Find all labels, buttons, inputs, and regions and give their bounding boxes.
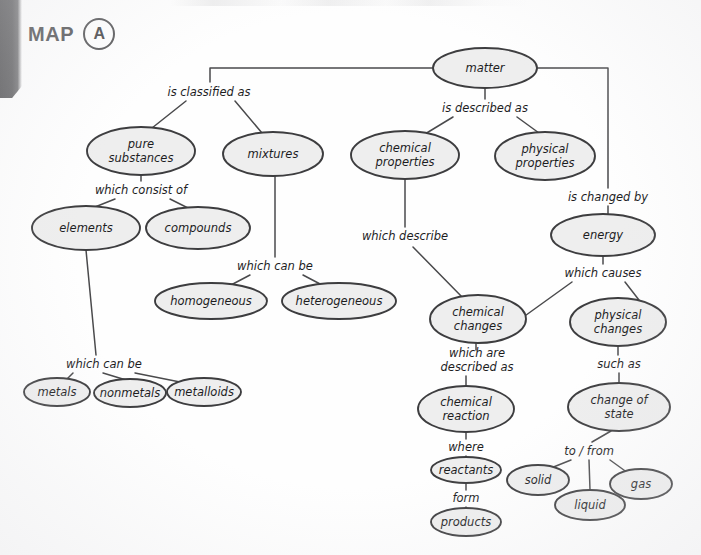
link-label-which_can_be_elem: which can be — [66, 357, 142, 371]
node-label: chemical — [452, 305, 504, 319]
node-label: liquid — [574, 498, 606, 512]
edge-which_can_be_mix-to-homogeneous — [231, 275, 250, 285]
link-label-text: such as — [597, 357, 641, 371]
link-label-such_as: such as — [597, 357, 641, 371]
link-label-is_classified_as: is classified as — [167, 85, 250, 99]
concept-map-page: MAP A matterpuresubstancesmixtureschemic… — [0, 0, 701, 555]
link-label-text: described as — [441, 360, 514, 374]
node-label: products — [440, 515, 491, 529]
node-energy[interactable]: energy — [551, 214, 655, 256]
node-matter[interactable]: matter — [433, 48, 537, 88]
edge-is_classified_as-to-pure_substances — [152, 101, 186, 128]
node-products[interactable]: products — [431, 508, 501, 536]
node-label: pure — [127, 137, 154, 151]
node-physical_properties[interactable]: physicalproperties — [495, 132, 595, 180]
node-mixtures[interactable]: mixtures — [223, 132, 323, 176]
node-metalloids[interactable]: metalloids — [167, 378, 241, 406]
edge-which_causes-to-physical_changes — [625, 282, 639, 300]
link-label-which_causes: which causes — [565, 266, 642, 280]
node-label: solid — [525, 473, 552, 487]
node-label: physical — [520, 142, 569, 156]
node-label: reaction — [442, 409, 489, 423]
edge-which_causes-to-chemical_changes — [522, 282, 572, 318]
node-label: matter — [465, 61, 505, 75]
node-change_of_state[interactable]: change ofstate — [568, 383, 670, 431]
link-label-text: which causes — [565, 266, 642, 280]
link-label-text: is classified as — [167, 85, 250, 99]
node-compounds[interactable]: compounds — [146, 207, 250, 249]
link-label-which_describe: which describe — [362, 229, 448, 243]
link-label-where: where — [448, 440, 484, 454]
edge-is_described_as-to-chemical_properties — [425, 117, 453, 134]
node-label: gas — [631, 477, 651, 491]
node-label: energy — [583, 228, 623, 242]
node-label: physical — [593, 308, 642, 322]
link-label-text: which can be — [237, 259, 313, 273]
link-label-text: where — [448, 440, 484, 454]
node-heterogeneous[interactable]: heterogeneous — [282, 283, 396, 319]
link-label-text: is described as — [442, 101, 528, 115]
node-homogeneous[interactable]: homogeneous — [155, 283, 267, 319]
edge-change_of_state-to-to_from — [592, 431, 611, 442]
node-label: state — [604, 407, 633, 421]
link-label-text: which are — [449, 346, 505, 360]
node-elements[interactable]: elements — [32, 206, 140, 250]
node-solid[interactable]: solid — [507, 465, 569, 495]
node-label: chemical — [440, 395, 492, 409]
concept-map-canvas: matterpuresubstancesmixtureschemicalprop… — [0, 0, 701, 555]
node-chemical_properties[interactable]: chemicalproperties — [351, 131, 459, 179]
link-label-text: which consist of — [95, 183, 189, 197]
link-label-to_from: to / from — [564, 444, 614, 458]
node-label: reactants — [439, 463, 494, 477]
edge-which_describe-to-chemical_changes — [413, 247, 463, 298]
edge-matter-to-is_classified_as — [210, 68, 433, 82]
node-label: substances — [109, 151, 174, 165]
node-label: compounds — [165, 221, 232, 235]
node-label: properties — [375, 155, 435, 169]
link-label-text: to / from — [564, 444, 614, 458]
node-label: heterogeneous — [296, 294, 383, 308]
link-label-which_can_be_mix: which can be — [237, 259, 313, 273]
node-label: chemical — [379, 141, 431, 155]
node-label: mixtures — [248, 147, 299, 161]
node-label: nonmetals — [100, 386, 161, 400]
link-label-text: is changed by — [568, 190, 648, 204]
node-metals[interactable]: metals — [24, 378, 90, 406]
node-physical_changes[interactable]: physicalchanges — [570, 298, 666, 346]
node-label: properties — [515, 156, 575, 170]
node-label: homogeneous — [170, 294, 252, 308]
node-chemical_changes[interactable]: chemicalchanges — [430, 295, 526, 343]
node-gas[interactable]: gas — [610, 469, 672, 499]
node-label: metals — [37, 385, 76, 399]
link-label-which_consist_of: which consist of — [95, 183, 189, 197]
link-label-is_described_as: is described as — [442, 101, 528, 115]
link-label-text: which describe — [362, 229, 448, 243]
node-label: metalloids — [174, 385, 234, 399]
node-pure_substances[interactable]: puresubstances — [87, 127, 195, 175]
node-label: changes — [454, 319, 502, 333]
link-label-is_changed_by: is changed by — [568, 190, 648, 204]
node-label: changes — [594, 322, 642, 336]
nodes-layer: matterpuresubstancesmixtureschemicalprop… — [24, 48, 672, 536]
node-chemical_reaction[interactable]: chemicalreaction — [418, 386, 514, 432]
edge-is_described_as-to-physical_properties — [517, 117, 539, 133]
edge-to_from-to-liquid — [589, 460, 590, 490]
edge-elements-to-which_can_be_elem — [86, 250, 96, 355]
node-liquid[interactable]: liquid — [555, 490, 625, 520]
node-nonmetals[interactable]: nonmetals — [94, 379, 166, 407]
node-label: elements — [59, 221, 112, 235]
link-label-text: which can be — [66, 357, 142, 371]
edge-is_classified_as-to-mixtures — [235, 101, 262, 133]
node-label: change of — [590, 393, 649, 407]
link-label-which_are_desc_as: which aredescribed as — [441, 346, 514, 374]
link-label-form: form — [452, 491, 479, 505]
link-label-text: form — [452, 491, 479, 505]
node-reactants[interactable]: reactants — [431, 457, 501, 483]
